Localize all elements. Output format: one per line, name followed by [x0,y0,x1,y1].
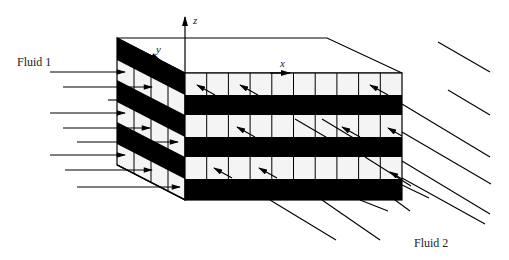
axis-y-label: y [155,43,161,55]
fluid2-label: Fluid 2 [414,236,448,250]
heat-exchanger-diagram: Fluid 1 Fluid 2 x y z [0,0,509,260]
front-face [185,73,402,200]
axis-x-label: x [279,57,285,69]
axis-z-label: z [192,14,198,26]
fluid1-label: Fluid 1 [17,55,51,69]
